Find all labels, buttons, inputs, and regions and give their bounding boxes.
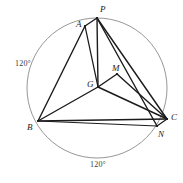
segment-layer xyxy=(38,18,167,126)
segment-BN xyxy=(38,121,157,126)
geometry-figure-canvas: PABCNGM 120°120° xyxy=(0,0,183,183)
point-n xyxy=(156,125,158,127)
arc-label-left: 120° xyxy=(15,60,31,68)
vertex-label-b: B xyxy=(27,123,33,132)
point-c xyxy=(166,118,168,120)
vertex-label-a: A xyxy=(76,20,82,29)
point-a xyxy=(84,25,86,27)
point-p xyxy=(96,17,98,19)
geometry-figure-svg xyxy=(0,0,183,183)
segment-AB xyxy=(38,26,85,121)
segment-CN xyxy=(157,119,167,126)
segment-PC xyxy=(97,18,167,119)
segment-GM xyxy=(98,74,117,87)
point-g xyxy=(97,86,99,88)
segment-BC xyxy=(38,119,167,121)
point-m xyxy=(116,73,118,75)
vertex-label-n: N xyxy=(158,130,164,139)
segment-AG xyxy=(85,26,98,87)
segment-PG xyxy=(97,18,98,87)
point-b xyxy=(37,120,39,122)
vertex-label-m: M xyxy=(112,64,120,73)
vertex-label-p: P xyxy=(100,5,106,14)
arc-label-bottom: 120° xyxy=(90,161,106,169)
vertex-label-c: C xyxy=(171,113,177,122)
vertex-label-g: G xyxy=(87,80,94,89)
segment-MC xyxy=(117,74,167,119)
